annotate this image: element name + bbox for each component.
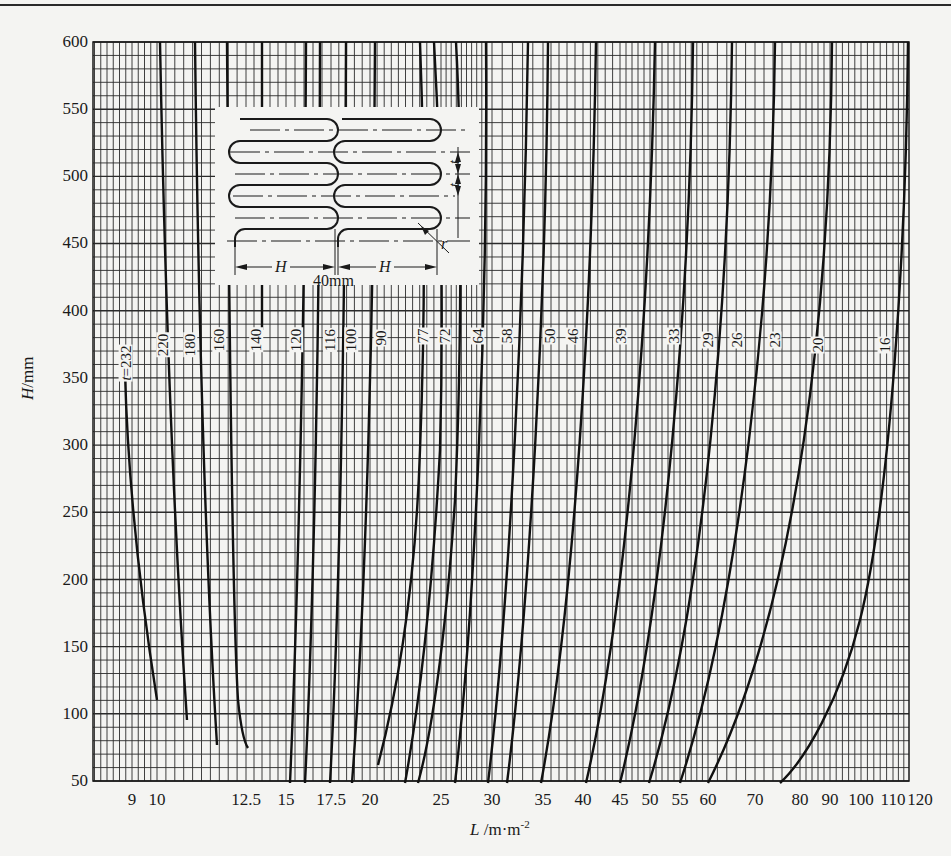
x-tick-label: 60 (700, 790, 717, 810)
curve-label: t=232 (119, 344, 133, 381)
curve-label: 20 (811, 337, 825, 354)
y-axis-label-unit: /mm (18, 357, 37, 388)
inset-label-t-bottom: t (447, 183, 463, 187)
serpentine-tube-icon (215, 107, 479, 285)
curve-label: 26 (730, 332, 744, 349)
x-tick-label: 120 (907, 790, 933, 810)
x-tick-label: 70 (747, 790, 764, 810)
y-tick-label: 400 (48, 301, 88, 321)
y-tick-label: 500 (48, 166, 88, 186)
x-tick-label: 17.5 (316, 790, 346, 810)
x-tick-label: 35 (535, 790, 552, 810)
curve-t=232 (125, 372, 157, 700)
curve-label: 90 (374, 330, 388, 347)
x-tick-label: 90 (822, 790, 839, 810)
y-tick-label: 300 (48, 435, 88, 455)
curve-label: 33 (667, 328, 681, 345)
curve-39 (541, 42, 596, 783)
x-tick-label: 25 (433, 790, 450, 810)
curve-label: 160 (212, 328, 226, 353)
curve-23 (680, 42, 775, 783)
curve-label: 140 (249, 328, 263, 353)
y-axis-label: H/mm (18, 357, 38, 400)
inset-diagram: H H 40mm t t r (215, 107, 479, 285)
curve-label: 16 (878, 337, 892, 354)
x-tick-label: 80 (792, 790, 809, 810)
curve-label: 220 (156, 333, 170, 358)
x-tick-label: 40 (575, 790, 592, 810)
x-tick-label: 50 (642, 790, 659, 810)
x-tick-label: 15 (278, 790, 295, 810)
curve-180 (195, 42, 217, 745)
curve-label: 180 (183, 333, 197, 358)
curve-label: 72 (438, 328, 452, 345)
curve-33 (586, 42, 655, 783)
x-tick-label: 30 (484, 790, 501, 810)
curve-46 (507, 42, 548, 783)
inset-label-r: r (441, 235, 447, 253)
curve-16 (780, 42, 908, 783)
y-axis-label-var: H (18, 388, 37, 400)
x-axis-label-unit: /m·m (479, 820, 520, 839)
y-tick-label: 350 (48, 368, 88, 388)
curve-label: 46 (566, 328, 580, 345)
y-tick-label: 450 (48, 233, 88, 253)
x-axis-label-exponent: -2 (521, 818, 530, 830)
x-tick-label: 12.5 (231, 790, 261, 810)
inset-label-spacing: 40mm (313, 272, 354, 290)
curve-label: 29 (701, 332, 715, 349)
inset-label-h-right: H (376, 258, 394, 276)
y-tick-label: 600 (48, 32, 88, 52)
x-tick-label: 9 (128, 790, 137, 810)
curve-29 (620, 42, 693, 783)
y-tick-label: 550 (48, 99, 88, 119)
x-tick-label: 45 (612, 790, 629, 810)
x-tick-label: 110 (881, 790, 906, 810)
x-axis-label: L /m·m-2 (470, 818, 530, 840)
inset-label-h-left: H (272, 258, 290, 276)
curve-label: 23 (768, 332, 782, 349)
x-tick-label: 20 (362, 790, 379, 810)
inset-label-t-top: t (447, 160, 463, 164)
curve-label: 116 (323, 328, 337, 352)
curve-label: 58 (500, 328, 514, 345)
y-tick-label: 50 (48, 771, 88, 791)
y-tick-label: 200 (48, 570, 88, 590)
curve-50 (488, 42, 528, 783)
x-tick-label: 100 (848, 790, 874, 810)
y-tick-label: 150 (48, 637, 88, 657)
curve-label: 64 (471, 328, 485, 345)
curve-label: 50 (543, 328, 557, 345)
y-tick-label: 100 (48, 704, 88, 724)
y-tick-label: 250 (48, 502, 88, 522)
x-tick-label: 55 (672, 790, 689, 810)
curve-label: 100 (344, 328, 358, 353)
curve-220 (160, 42, 187, 720)
x-tick-label: 10 (149, 790, 166, 810)
curve-label: 77 (416, 328, 430, 345)
curve-label: 120 (289, 328, 303, 353)
curve-label: 39 (614, 328, 628, 345)
